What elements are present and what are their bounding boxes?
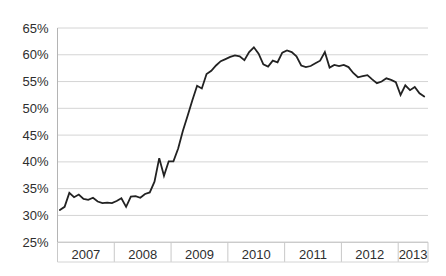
x-year-label: 2010 <box>242 247 271 262</box>
series-line-group <box>60 47 424 210</box>
gridlines <box>58 28 429 215</box>
x-year-label: 2008 <box>128 247 157 262</box>
y-tick-label: 65% <box>22 21 48 36</box>
y-tick-label: 50% <box>22 101 48 116</box>
x-year-label: 2013 <box>399 247 428 262</box>
y-tick-label: 60% <box>22 47 48 62</box>
x-year-label: 2007 <box>71 247 100 262</box>
y-tick-label: 40% <box>22 154 48 169</box>
line-chart-figure: 65%60%55%50%45%40%35%30%25% 200720082009… <box>0 0 446 276</box>
y-tick-label: 30% <box>22 208 48 223</box>
series-line <box>60 47 424 210</box>
x-year-label: 2011 <box>299 247 327 262</box>
x-axis-labels: 2007200820092010201120122013 <box>71 247 427 262</box>
y-axis-labels: 65%60%55%50%45%40%35%30%25% <box>22 21 48 250</box>
y-tick-label: 55% <box>22 74 48 89</box>
x-year-label: 2009 <box>185 247 214 262</box>
x-year-label: 2012 <box>355 247 384 262</box>
y-tick-label: 45% <box>22 128 48 143</box>
chart-svg: 65%60%55%50%45%40%35%30%25% 200720082009… <box>0 0 446 276</box>
y-tick-label: 35% <box>22 181 48 196</box>
y-tick-label: 25% <box>22 235 48 250</box>
